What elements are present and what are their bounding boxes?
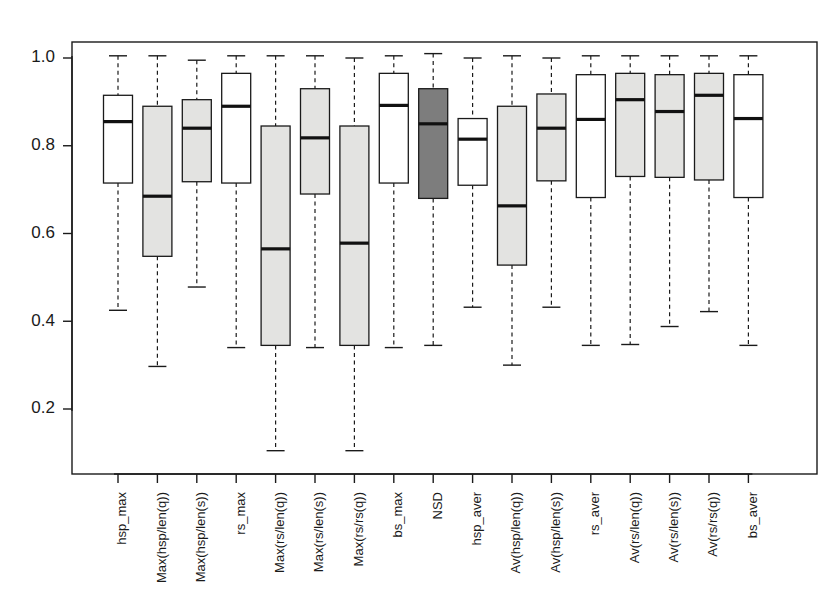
x-tick-label: Av(hsp/len(q)) [508, 492, 523, 573]
x-tick-label: bs_max [390, 492, 405, 538]
boxplot-box [576, 56, 605, 346]
x-tick-label: rs_max [233, 492, 248, 535]
boxplot-box [734, 56, 763, 346]
boxplot-box [379, 56, 408, 348]
iqr-box [419, 89, 448, 199]
x-tick-label: Max(hsp/len(s)) [193, 492, 208, 582]
boxplot-chart: 1.00.80.60.40.2 hsp_maxMax(hsp/len(q))Ma… [0, 0, 829, 601]
x-tick-label: hsp_aver [469, 491, 484, 545]
iqr-box [143, 106, 172, 256]
x-tick-label: bs_aver [745, 491, 760, 538]
x-axis: hsp_maxMax(hsp/len(q))Max(hsp/len(s))rs_… [114, 474, 760, 583]
y-tick-label: 1.0 [31, 47, 55, 66]
iqr-box [655, 75, 684, 178]
iqr-box [616, 73, 645, 176]
boxplot-box [301, 56, 330, 348]
iqr-box [537, 94, 566, 181]
boxplot-box [458, 58, 487, 307]
y-tick-label: 0.6 [31, 223, 55, 242]
boxplot-box [695, 56, 724, 312]
iqr-box [104, 95, 133, 183]
y-tick-label: 0.4 [31, 311, 55, 330]
iqr-box [182, 100, 211, 182]
boxplot-box [616, 56, 645, 345]
boxplot-box [655, 56, 684, 327]
boxplot-box [340, 58, 369, 451]
boxplot-box [419, 54, 448, 346]
iqr-box [301, 89, 330, 194]
iqr-box [695, 73, 724, 180]
x-tick-label: Av(rs/len(q)) [627, 492, 642, 563]
x-tick-label: Av(hsp/len(s)) [548, 492, 563, 573]
boxplot-box [182, 60, 211, 287]
y-axis: 1.00.80.60.40.2 [31, 47, 72, 417]
y-tick-label: 0.2 [31, 398, 55, 417]
boxplot-box [222, 56, 251, 348]
x-tick-label: NSD [430, 492, 445, 519]
y-tick-label: 0.8 [31, 135, 55, 154]
iqr-box [379, 73, 408, 183]
x-tick-label: Av(rs/rs(q)) [705, 492, 720, 557]
boxes-layer [104, 54, 763, 451]
x-tick-label: Max(rs/len(s)) [311, 492, 326, 572]
iqr-box [458, 119, 487, 186]
iqr-box [222, 73, 251, 183]
iqr-box [340, 126, 369, 345]
iqr-box [261, 126, 290, 345]
boxplot-svg: 1.00.80.60.40.2 hsp_maxMax(hsp/len(q))Ma… [0, 0, 829, 601]
boxplot-box [537, 58, 566, 307]
iqr-box [498, 106, 527, 265]
x-tick-label: Max(rs/rs(q)) [351, 492, 366, 566]
x-tick-label: Max(rs/len(q)) [272, 492, 287, 573]
x-tick-label: Av(rs/len(s)) [666, 492, 681, 563]
boxplot-box [261, 56, 290, 451]
iqr-box [734, 75, 763, 198]
x-tick-label: rs_aver [587, 491, 602, 535]
x-tick-label: Max(hsp/len(q)) [154, 492, 169, 583]
boxplot-box [143, 56, 172, 367]
boxplot-box [498, 56, 527, 365]
iqr-box [576, 75, 605, 198]
x-tick-label: hsp_max [114, 492, 129, 545]
boxplot-box [104, 56, 133, 310]
